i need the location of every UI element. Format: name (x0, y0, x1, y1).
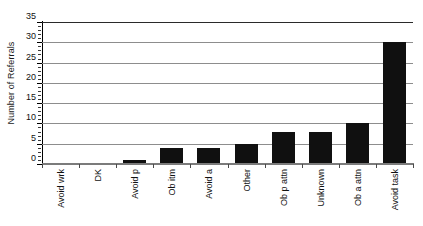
x-axis-tick (190, 164, 191, 168)
y-axis-minor-tick (38, 107, 41, 108)
y-axis-minor-tick (38, 59, 41, 60)
y-axis-minor-tick (38, 34, 41, 35)
x-axis-tick (153, 164, 154, 168)
y-axis-tick-label: 15 (18, 93, 36, 102)
x-axis-category-label: Ob p attn (265, 169, 302, 226)
y-axis-minor-tick (38, 156, 41, 157)
y-axis-minor-tick (38, 115, 41, 116)
y-axis-minor-tick (38, 79, 41, 80)
y-axis-tick-labels: 05101520253035 (18, 16, 36, 164)
x-axis-category-label-text: Avoid a (204, 169, 213, 199)
y-axis-tick-label: 25 (18, 53, 36, 62)
y-axis-tick-label: 5 (18, 134, 36, 143)
bar (383, 42, 406, 164)
x-axis-tick (42, 164, 43, 168)
y-axis-minor-tick (38, 111, 41, 112)
x-axis-tick (376, 164, 377, 168)
y-axis-tick-label: 10 (18, 113, 36, 122)
x-axis-tick (265, 164, 266, 168)
y-axis-minor-tick (38, 136, 41, 137)
bars-group (42, 22, 413, 164)
y-axis-tick-label: 20 (18, 73, 36, 82)
x-axis-category-label: Ob itm (153, 169, 190, 226)
x-axis-tick (413, 164, 414, 168)
x-axis-tick (79, 164, 80, 168)
y-axis-minor-tick (38, 95, 41, 96)
bar (346, 123, 369, 164)
x-axis-category-label-text: Ob a attn (353, 169, 362, 206)
x-axis-category-label-text: DK (93, 169, 102, 182)
bar (235, 144, 258, 164)
y-axis-tick-label: 30 (18, 32, 36, 41)
x-axis-category-label: DK (79, 169, 116, 226)
bar (160, 148, 183, 164)
y-axis-minor-tick (38, 87, 41, 88)
y-axis-minor-tick (38, 46, 41, 47)
y-axis-minor-tick (38, 132, 41, 133)
y-axis-minor-tick (38, 152, 41, 153)
bar (272, 132, 295, 164)
x-axis-category-label: Other (228, 169, 265, 226)
x-axis-category-label-text: Avoid task (390, 169, 399, 210)
x-axis-category-label-text: Ob p attn (279, 169, 288, 206)
y-axis-title-text: Number of Referrals (6, 42, 16, 125)
y-axis-minor-tick (38, 30, 41, 31)
x-axis-category-label: Avoid a (190, 169, 227, 226)
x-axis-category-label: Avoid p (116, 169, 153, 226)
y-axis-minor-tick (38, 91, 41, 92)
y-axis-minor-tick (38, 160, 41, 161)
y-axis-tick-label: 35 (18, 12, 36, 21)
bar (197, 148, 220, 164)
x-axis-tick (228, 164, 229, 168)
y-axis-minor-tick (38, 50, 41, 51)
x-axis-category-label: Avoid wrk (42, 169, 79, 226)
y-axis-tick-label: 0 (18, 154, 36, 163)
x-axis-category-label-text: Unknown (316, 169, 325, 207)
x-axis-category-label-text: Avoid p (130, 169, 139, 199)
y-axis-minor-tick (38, 67, 41, 68)
plot-area (42, 22, 413, 164)
x-axis-category-labels: Avoid wrkDKAvoid pOb itmAvoid aOtherOb p… (42, 169, 414, 226)
x-axis-tick (339, 164, 340, 168)
y-axis-minor-tick (38, 148, 41, 149)
x-axis-category-label: Ob a attn (339, 169, 376, 226)
x-axis-tick (302, 164, 303, 168)
y-axis-minor-tick (38, 75, 41, 76)
y-axis-minor-tick (38, 26, 41, 27)
x-axis-category-label-text: Avoid wrk (56, 169, 65, 208)
y-axis-minor-tick (38, 127, 41, 128)
y-axis-minor-tick (38, 71, 41, 72)
y-axis-minor-tick (38, 54, 41, 55)
x-axis-category-label-text: Ob itm (167, 169, 176, 196)
y-axis-minor-tick (38, 99, 41, 100)
y-axis-minor-tick (38, 38, 41, 39)
x-axis-tick (116, 164, 117, 168)
bar (309, 132, 332, 164)
y-axis-minor-tick (38, 119, 41, 120)
x-axis-category-label-text: Other (242, 169, 251, 192)
x-axis-category-label: Unknown (302, 169, 339, 226)
bar-chart: Number of Referrals 05101520253035 Avoid… (0, 0, 423, 226)
y-axis-minor-tick (38, 140, 41, 141)
x-axis-category-label: Avoid task (376, 169, 413, 226)
